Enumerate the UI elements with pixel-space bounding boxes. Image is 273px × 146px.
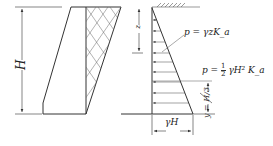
wall-hatch-pattern (40, 7, 160, 145)
height-label: H (14, 60, 28, 70)
resultant-location-label: y = H/3 (202, 87, 211, 118)
base-pressure-label: γH (165, 117, 178, 127)
resultant-tail: γH² K_a (228, 65, 264, 75)
fraction-denominator: 2 (221, 71, 225, 78)
ground-surface-hatching (152, 3, 200, 7)
pressure-distribution (121, 7, 193, 114)
depth-dimension (132, 9, 143, 53)
resultant-force-label: p = 1 2 γH² K_a (202, 63, 265, 78)
depth-label: z (134, 25, 142, 29)
resultant-p: p = (202, 65, 218, 75)
resultant-fraction: 1 2 (221, 63, 225, 78)
pressure-at-depth-label: p = γzK_a (184, 27, 230, 37)
